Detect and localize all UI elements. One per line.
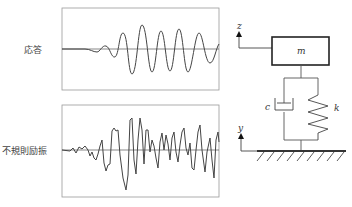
suspension-frame (284, 65, 318, 150)
z-displacement-arrow (236, 31, 272, 48)
response-waveform (62, 25, 219, 74)
excitation-panel (62, 105, 219, 197)
vibration-diagram: 応答 不規則励振 z m c k y (0, 0, 352, 207)
response-panel (62, 8, 219, 90)
spring-label: k (334, 103, 339, 113)
y-displacement-arrow (238, 133, 257, 151)
spring (308, 95, 328, 140)
z-axis-label: z (236, 21, 242, 31)
response-label: 応答 (24, 44, 42, 55)
excitation-waveform (62, 118, 219, 190)
damper-label: c (265, 102, 270, 112)
ground (257, 151, 346, 161)
mass-label: m (297, 46, 306, 56)
y-axis-label: y (237, 123, 244, 133)
excitation-label: 不規則励振 (2, 145, 47, 156)
